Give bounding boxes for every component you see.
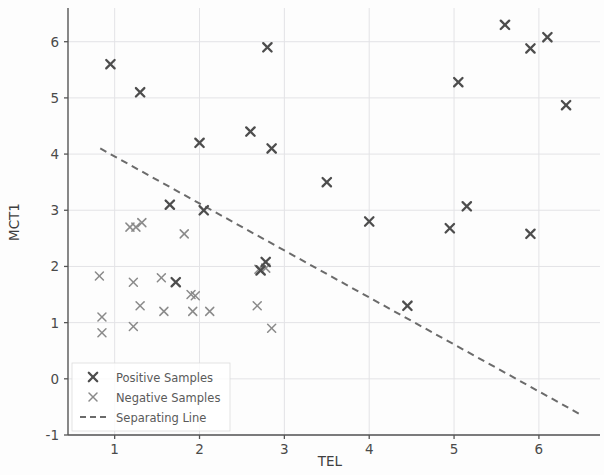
legend: Positive SamplesNegative SamplesSeparati… <box>72 363 230 431</box>
legend-label: Separating Line <box>116 411 206 425</box>
y-tick-label: 1 <box>50 315 59 331</box>
y-tick-label: -1 <box>46 427 59 443</box>
x-tick-label: 1 <box>110 441 119 457</box>
negative-sample-points <box>95 219 275 337</box>
y-tick-label: 3 <box>50 202 59 218</box>
y-tick-label: 2 <box>50 258 59 274</box>
legend-label: Positive Samples <box>116 371 213 385</box>
scatter-plot-figure: 123456-10123456 Positive SamplesNegative… <box>0 0 604 475</box>
y-tick-label: 4 <box>50 146 59 162</box>
y-tick-label: 0 <box>50 371 59 387</box>
x-axis-label: TEL <box>317 453 343 469</box>
x-tick-label: 5 <box>450 441 459 457</box>
x-tick-label: 6 <box>535 441 544 457</box>
y-axis-label: MCT1 <box>6 203 22 241</box>
legend-label: Negative Samples <box>116 391 220 405</box>
x-tick-label: 4 <box>365 441 374 457</box>
x-tick-label: 2 <box>195 441 204 457</box>
y-tick-label: 5 <box>50 90 59 106</box>
plot-canvas: 123456-10123456 Positive SamplesNegative… <box>0 0 604 475</box>
x-tick-label: 3 <box>280 441 289 457</box>
y-tick-label: 6 <box>50 34 59 50</box>
